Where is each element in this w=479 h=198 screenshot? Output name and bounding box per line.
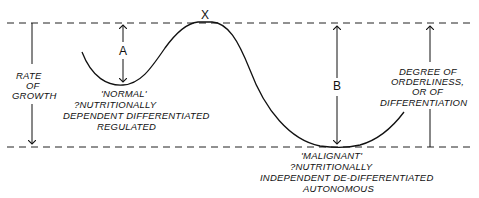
gap-a-label: A [119,44,127,58]
normal-line-4: REGULATED [97,121,156,132]
right-axis-label-4: DIFFERENTIATION [380,97,467,108]
left-axis-label-3: GROWTH [12,90,56,101]
normal-line-3: DEPENDENT DIFFERENTIATED [63,110,210,121]
growth-differentiation-diagram: X RATE OF GROWTH A 'NORMAL' ?NUTRITIONAL… [0,0,479,198]
malignant-line-3: INDEPENDENT DE-DIFFERENTIATED [260,172,433,183]
normal-state-label: 'NORMAL' ?NUTRITIONALLY DEPENDENT DIFFER… [63,88,210,132]
normal-line-1: 'NORMAL' [101,88,148,99]
normal-line-2: ?NUTRITIONALLY [74,99,157,110]
malignant-line-1: 'MALIGNANT' [301,150,363,161]
right-axis-label-3: OR OF [412,86,444,97]
malignant-line-2: ?NUTRITIONALLY [290,161,373,172]
gap-b-label: B [333,79,341,93]
malignant-line-4: AUTONOMOUS [302,183,374,194]
malignant-state-label: 'MALIGNANT' ?NUTRITIONALLY INDEPENDENT D… [260,150,433,194]
peak-label: X [201,8,209,22]
